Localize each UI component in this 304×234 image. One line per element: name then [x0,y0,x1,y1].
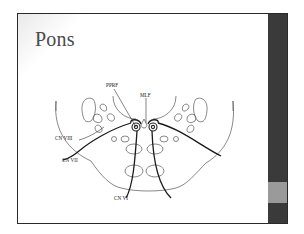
pons-diagram: PPRF MLF CN VIII CN VII CN VI [18,14,288,224]
label-cn6: CN VI [114,195,128,201]
pprf-pointer [114,89,136,127]
label-cn8: CN VIII [55,135,73,141]
label-pprf: PPRF [106,82,118,88]
label-cn7: CN VII [62,157,78,163]
cn7-left-fiber [63,123,131,160]
cn8-pointer [79,127,104,140]
label-mlf: MLF [140,92,151,98]
slide: Pons [17,13,288,224]
cn6-right-fiber [152,131,171,198]
cn7-right-fiber [158,123,221,156]
